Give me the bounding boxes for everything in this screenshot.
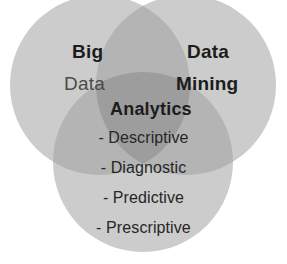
label-mining: Mining xyxy=(176,74,238,93)
label-data-right: Data xyxy=(187,42,229,61)
label-analytics: Analytics xyxy=(110,100,192,118)
label-data-left: Data xyxy=(64,74,105,93)
venn-diagram: Big Data Data Mining Analytics - Descrip… xyxy=(0,0,287,264)
label-big: Big xyxy=(72,42,103,61)
venn-label-layer: Big Data Data Mining Analytics - Descrip… xyxy=(0,0,287,264)
list-item: - Diagnostic xyxy=(0,160,287,176)
analytics-type-list: - Descriptive - Diagnostic - Predictive … xyxy=(0,130,287,250)
list-item: - Prescriptive xyxy=(0,220,287,236)
list-item: - Descriptive xyxy=(0,130,287,146)
list-item: - Predictive xyxy=(0,190,287,206)
